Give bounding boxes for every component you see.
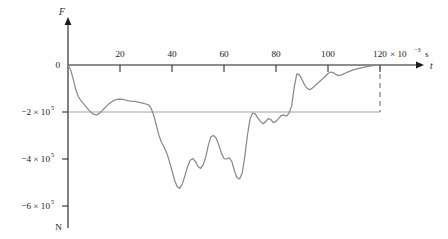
force-time-chart-figure: 20 40 60 80 100 120 × 10 −3 s 0 −2 × 10 …: [0, 0, 448, 239]
force-curve: [68, 65, 380, 188]
y-tick-label-zero: 0: [55, 60, 60, 70]
x-tick-label-40: 40: [167, 49, 177, 59]
x-axis-arrow-icon: [416, 62, 424, 69]
y-tick-label-minus6e5: −6 × 10: [21, 201, 50, 211]
y-axis-arrow-icon: [65, 17, 72, 25]
x-axis-label: t: [430, 61, 433, 71]
x-axis-ticks: [120, 65, 380, 72]
x-axis-group: [68, 62, 424, 69]
y-tick-label-minus4e5: −4 × 10: [21, 154, 50, 164]
x-unit-exponent: −3: [414, 46, 421, 53]
x-axis-unit-label-group: 120 × 10 −3 s: [373, 46, 429, 59]
x-tick-label-60: 60: [219, 49, 229, 59]
x-tick-label-80: 80: [271, 49, 281, 59]
y-axis-unit-label: N: [55, 222, 62, 232]
x-unit-mantissa: × 10: [390, 49, 407, 59]
y-tick-label-minus6e5-group: −6 × 10 5: [21, 198, 54, 211]
y-tick-label-minus2e5-group: −2 × 10 5: [21, 104, 54, 117]
y-axis-ticks: [62, 112, 68, 206]
y-tick-label-minus2e5: −2 × 10: [21, 107, 50, 117]
y-tick-label-minus4e5-group: −4 × 10 5: [21, 151, 54, 164]
x-tick-label-20: 20: [115, 49, 125, 59]
y-axis-group: [65, 17, 72, 228]
chart-canvas: 20 40 60 80 100 120 × 10 −3 s 0 −2 × 10 …: [0, 0, 448, 239]
y-tick-exponent-minus6e5: 5: [51, 198, 54, 205]
x-unit-symbol: s: [425, 49, 429, 59]
x-tick-label-100: 100: [321, 49, 335, 59]
y-axis-label: F: [58, 7, 65, 17]
y-tick-exponent-minus2e5: 5: [51, 104, 54, 111]
y-tick-exponent-minus4e5: 5: [51, 151, 54, 158]
x-tick-label-120: 120: [373, 49, 387, 59]
